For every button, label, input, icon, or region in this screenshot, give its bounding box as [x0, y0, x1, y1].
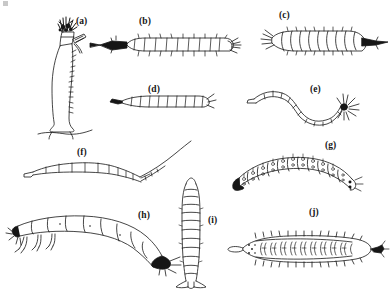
- specimen-label-e: (e): [310, 85, 321, 95]
- specimen-label-a: (a): [76, 17, 87, 27]
- figure-plate: (a) (b) (c) (d) (e) (f) (g) (h) (i) (j): [0, 0, 391, 296]
- specimen-h-drawing: [6, 216, 181, 276]
- specimen-label-h: (h): [138, 211, 150, 221]
- specimen-label-f: (f): [77, 148, 87, 158]
- specimen-label-d: (d): [148, 85, 160, 95]
- specimen-label-b: (b): [139, 17, 151, 27]
- specimen-i-drawing: [176, 178, 206, 289]
- specimen-label-c: (c): [279, 11, 290, 21]
- specimen-g-drawing: [233, 154, 363, 191]
- specimen-label-g: (g): [325, 141, 336, 151]
- specimen-label-i: (i): [208, 216, 217, 226]
- specimen-e-drawing: [247, 91, 359, 126]
- specimen-j-drawing: [228, 231, 389, 267]
- specimen-b-drawing: [90, 34, 241, 56]
- specimen-a-drawing: [38, 17, 92, 139]
- specimen-c-drawing: [261, 27, 388, 55]
- specimen-d-drawing: [110, 94, 216, 108]
- specimen-f-drawing: [24, 141, 191, 182]
- specimen-label-j: (j): [309, 208, 319, 218]
